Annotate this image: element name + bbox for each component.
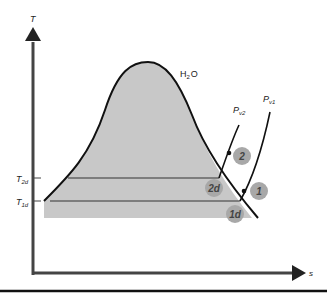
ts-diagram: 2 2d 1 1d T s T2d T1d H2O Pv2 Pv1 xyxy=(0,0,327,298)
y-axis-arrow-icon xyxy=(25,27,41,41)
isobar-label-pv2: Pv2 xyxy=(233,105,246,116)
point-2d-label: 2d xyxy=(207,183,221,194)
x-axis-arrow-icon xyxy=(292,265,306,281)
isobar-label-pv1: Pv1 xyxy=(263,94,275,105)
saturation-dome xyxy=(44,62,252,218)
point-1-label: 1 xyxy=(256,186,262,197)
substance-label: H2O xyxy=(180,69,198,80)
state-marker-1 xyxy=(242,189,247,194)
tick-label-t2d: T2d xyxy=(16,174,29,185)
point-1d-label: 1d xyxy=(229,209,242,220)
x-axis-label: s xyxy=(309,269,313,278)
state-marker-2 xyxy=(227,151,232,156)
y-axis-label: T xyxy=(30,14,37,24)
point-2-label: 2 xyxy=(238,151,245,162)
tick-label-t1d: T1d xyxy=(16,197,29,208)
